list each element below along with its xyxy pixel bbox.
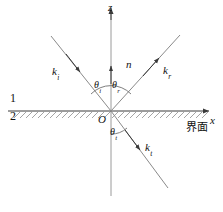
incident-ray (51, 36, 111, 111)
reflection-angle-label: θr (112, 80, 120, 93)
origin-label: O (98, 114, 106, 125)
reflected-vector-label: kr (163, 65, 171, 79)
x-axis-label: x (210, 115, 215, 126)
incidence-angle-label: θi (94, 80, 101, 93)
refraction-angle-subscript: t (115, 134, 117, 141)
reflected-vector-subscript: r (168, 72, 171, 81)
diagram-canvas (0, 0, 223, 212)
medium-2-label: 2 (10, 110, 16, 122)
optics-refraction-diagram: z x n ki kr kt θi θr θt 1 2 O 界面 (0, 0, 223, 212)
transmitted-vector-label: kt (145, 142, 152, 156)
transmitted-vector-subscript: t (150, 149, 152, 158)
reflection-angle-subscript: r (117, 87, 120, 94)
transmitted-ray (111, 111, 168, 188)
refraction-angle-label: θt (110, 127, 117, 140)
incident-vector-label: ki (52, 66, 59, 80)
incidence-angle-subscript: i (99, 87, 101, 94)
interface-label: 界面 (186, 122, 208, 133)
normal-label: n (126, 59, 132, 70)
incident-vector-subscript: i (57, 73, 59, 82)
medium-1-label: 1 (10, 92, 16, 104)
z-axis-label: z (108, 2, 112, 13)
